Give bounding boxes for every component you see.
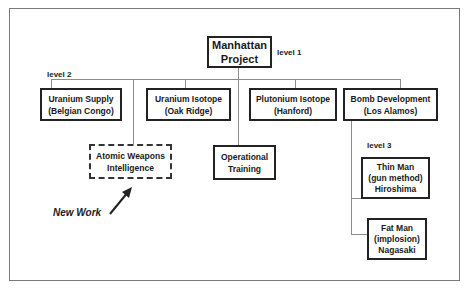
node-line: Plutonium Isotope bbox=[256, 93, 330, 105]
node-line: Atomic Weapons bbox=[96, 150, 165, 162]
node-line: Operational bbox=[221, 151, 268, 163]
node-bomb-development: Bomb Development (Los Alamos) bbox=[343, 88, 438, 121]
node-line: Bomb Development bbox=[351, 93, 431, 105]
label-level-3: level 3 bbox=[367, 141, 391, 150]
node-line: Project bbox=[221, 52, 258, 66]
node-line: Thin Man bbox=[377, 162, 414, 173]
node-line: Fat Man bbox=[381, 223, 413, 234]
node-uranium-supply: Uranium Supply (Belgian Congo) bbox=[40, 88, 122, 121]
node-line: (Oak Ridge) bbox=[165, 105, 213, 117]
node-line: Manhattan bbox=[212, 38, 267, 52]
node-plutonium-isotope: Plutonium Isotope (Hanford) bbox=[249, 88, 337, 121]
node-atomic-weapons-intelligence: Atomic Weapons Intelligence bbox=[89, 144, 172, 179]
node-line: Intelligence bbox=[107, 162, 154, 174]
node-thin-man: Thin Man (gun method) Hiroshima bbox=[361, 157, 430, 199]
connector-level3-trunk bbox=[351, 121, 352, 234]
connector-intelligence bbox=[133, 79, 134, 145]
connector-fat-man bbox=[351, 234, 368, 235]
node-fat-man: Fat Man (implosion) Nagasaki bbox=[367, 218, 427, 260]
arrow-up-right-icon bbox=[108, 186, 138, 216]
node-line: (Los Alamos) bbox=[364, 105, 418, 117]
label-level-2: level 2 bbox=[47, 70, 71, 79]
node-manhattan-project: Manhattan Project bbox=[207, 36, 272, 68]
connector-level2-bus bbox=[51, 79, 401, 80]
node-line: Hiroshima bbox=[375, 184, 417, 195]
connector-training bbox=[238, 79, 239, 146]
node-line: (Hanford) bbox=[274, 105, 312, 117]
node-line: Uranium Supply bbox=[48, 93, 113, 105]
node-line: (Belgian Congo) bbox=[48, 105, 114, 117]
node-line: (gun method) bbox=[368, 173, 422, 184]
node-line: Uranium Isotope bbox=[155, 93, 222, 105]
node-line: Nagasaki bbox=[378, 245, 415, 256]
node-line: (implosion) bbox=[374, 234, 420, 245]
node-uranium-isotope: Uranium Isotope (Oak Ridge) bbox=[146, 88, 231, 121]
node-operational-training: Operational Training bbox=[213, 145, 276, 180]
new-work-label: New Work bbox=[53, 207, 101, 218]
node-line: Training bbox=[228, 163, 261, 175]
connector-thin-man bbox=[351, 198, 361, 199]
label-level-1: level 1 bbox=[277, 48, 301, 57]
